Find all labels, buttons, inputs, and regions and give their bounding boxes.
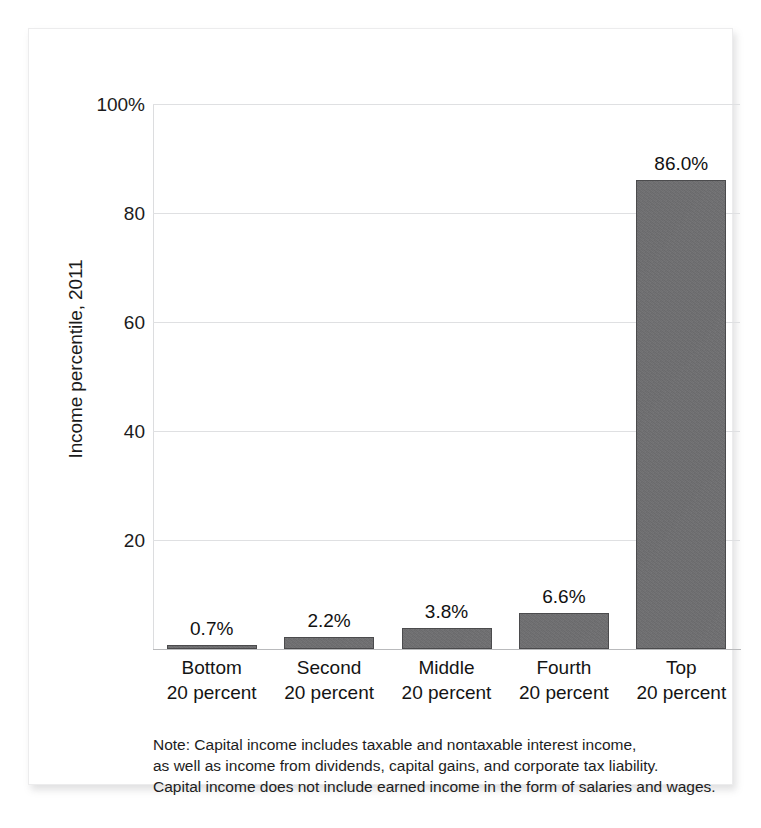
bar[interactable] [284,637,374,649]
bar-group[interactable]: 86.0% [636,104,726,649]
bar[interactable] [167,645,257,649]
y-tick-label-80: 80 [75,204,145,223]
x-category-label: Bottom20 percent [153,655,270,705]
y-tick-label-100: 100% [75,95,145,114]
bar-group[interactable]: 3.8% [402,104,492,649]
x-axis-line [153,649,741,650]
bar-value-label: 2.2% [307,611,350,631]
x-category-label: Top20 percent [623,655,740,705]
x-category-line-2: 20 percent [623,680,740,705]
bar[interactable] [519,613,609,649]
bar-group[interactable]: 0.7% [167,104,257,649]
x-category-line-1: Top [623,655,740,680]
note-line-3: Capital income does not include earned i… [153,776,753,797]
y-tick-label-60: 60 [75,313,145,332]
x-category-label: Fourth20 percent [505,655,622,705]
plot-area: 0.7%2.2%3.8%6.6%86.0% [153,104,740,649]
bar-group[interactable]: 2.2% [284,104,374,649]
y-axis-tick-labels: 100%80604020 [69,29,145,828]
x-category-line-1: Second [270,655,387,680]
x-category-label: Middle20 percent [388,655,505,705]
bar-group[interactable]: 6.6% [519,104,609,649]
x-category-line-1: Bottom [153,655,270,680]
x-category-line-2: 20 percent [153,680,270,705]
bar-value-label: 6.6% [542,587,585,607]
note-line-2: as well as income from dividends, capita… [153,755,753,776]
x-category-line-1: Fourth [505,655,622,680]
x-category-line-2: 20 percent [270,680,387,705]
bar-value-label: 3.8% [425,602,468,622]
x-category-line-1: Middle [388,655,505,680]
y-tick-label-40: 40 [75,422,145,441]
bar[interactable] [636,180,726,649]
x-category-line-2: 20 percent [505,680,622,705]
bar-value-label: 0.7% [190,619,233,639]
bar-value-label: 86.0% [654,154,708,174]
x-category-label: Second20 percent [270,655,387,705]
y-tick-label-20: 20 [75,531,145,550]
bar[interactable] [402,628,492,649]
chart-note: Note: Capital income includes taxable an… [153,734,753,797]
note-line-1: Note: Capital income includes taxable an… [153,734,753,755]
x-category-line-2: 20 percent [388,680,505,705]
x-axis-category-labels: Bottom20 percentSecond20 percentMiddle20… [153,655,741,711]
figure-card: Income percentile, 2011 100%80604020 0.7… [28,28,733,785]
